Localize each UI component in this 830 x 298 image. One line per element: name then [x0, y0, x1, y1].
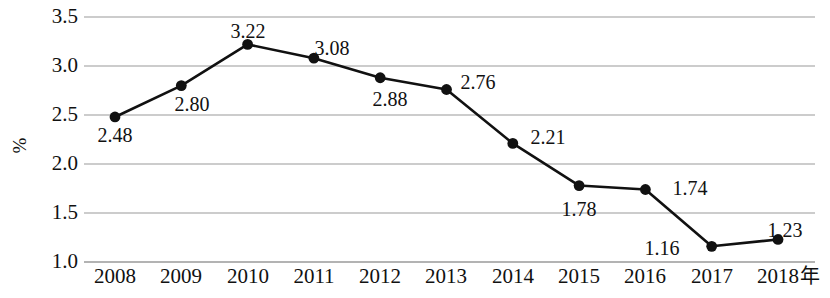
x-tick-label-2012: 2012 — [344, 266, 416, 287]
data-label-2015: 1.78 — [547, 199, 611, 219]
data-point-marker — [574, 180, 585, 191]
x-tick-label-2008: 2008 — [79, 266, 151, 287]
x-tick-label-2014: 2014 — [477, 266, 549, 287]
data-point-marker — [706, 241, 717, 252]
data-label-2018: 1.23 — [753, 220, 817, 240]
plot-area — [0, 0, 830, 298]
data-label-2008: 2.48 — [83, 125, 147, 145]
data-point-marker — [110, 112, 121, 123]
x-tick-label-2011: 2011 — [278, 266, 350, 287]
data-label-2014: 2.21 — [516, 127, 580, 147]
data-label-2016: 1.74 — [658, 178, 722, 198]
x-tick-label-2013: 2013 — [410, 266, 482, 287]
data-label-2013: 2.76 — [446, 72, 510, 92]
data-label-2010: 3.22 — [216, 21, 280, 41]
x-axis-unit-label: 年 — [800, 266, 820, 286]
data-label-2017: 1.16 — [630, 238, 694, 258]
data-point-marker — [640, 184, 651, 195]
data-point-marker — [375, 72, 386, 83]
data-label-2011: 3.08 — [300, 38, 364, 58]
data-label-2009: 2.80 — [160, 94, 224, 114]
x-tick-label-2009: 2009 — [145, 266, 217, 287]
line-chart: % 3.5 3.0 2.5 2.0 1.5 1.0 2008 2009 2010… — [0, 0, 830, 298]
x-tick-label-2017: 2017 — [676, 266, 748, 287]
data-point-marker — [176, 80, 187, 91]
x-tick-label-2016: 2016 — [609, 266, 681, 287]
data-label-2012: 2.88 — [358, 89, 422, 109]
x-tick-label-2010: 2010 — [212, 266, 284, 287]
x-tick-label-2015: 2015 — [543, 266, 615, 287]
